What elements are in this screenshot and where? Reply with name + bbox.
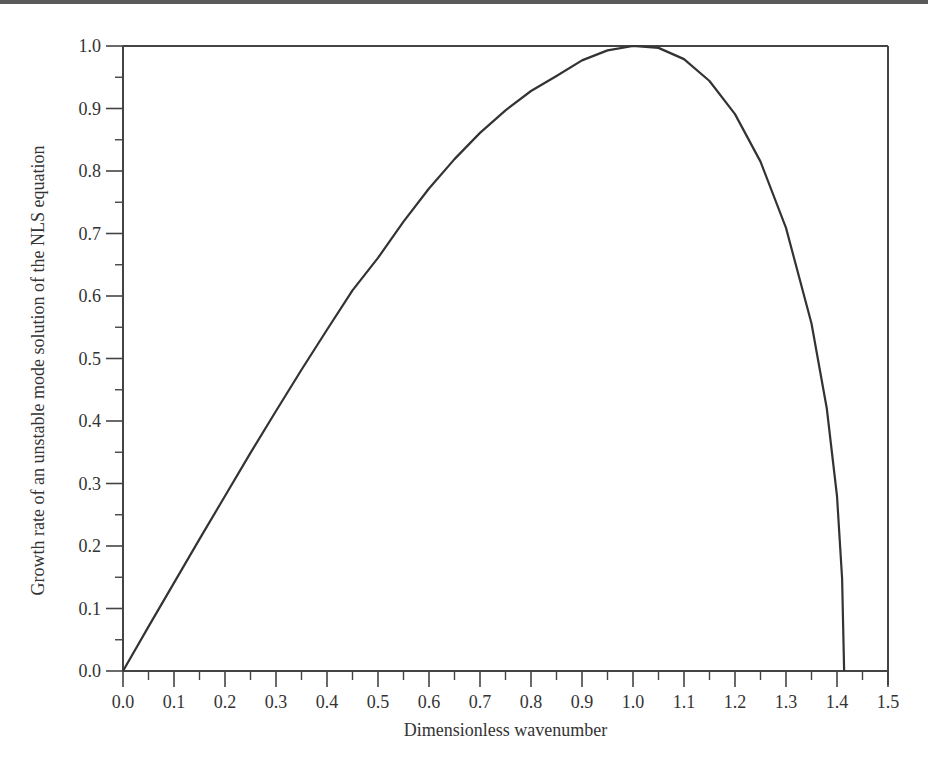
y-tick-label: 0.3 — [79, 474, 102, 494]
x-axis-title: Dimensionless wavenumber — [404, 720, 607, 740]
x-tick-label: 0.0 — [112, 692, 135, 712]
x-tick-label: 0.5 — [367, 692, 390, 712]
x-tick-label: 0.4 — [316, 692, 339, 712]
x-tick-label: 0.8 — [520, 692, 543, 712]
x-tick-label: 1.1 — [673, 692, 696, 712]
x-axis-ticks: 0.00.10.20.30.40.50.60.70.80.91.01.11.21… — [112, 671, 900, 712]
y-axis-title: Growth rate of an unstable mode solution… — [28, 146, 48, 596]
y-tick-label: 1.0 — [79, 36, 102, 56]
y-tick-label: 0.8 — [79, 161, 102, 181]
series-group — [123, 46, 844, 671]
y-tick-label: 0.9 — [79, 99, 102, 119]
x-tick-label: 0.6 — [418, 692, 441, 712]
x-tick-label: 0.9 — [571, 692, 594, 712]
x-tick-label: 1.3 — [775, 692, 798, 712]
x-tick-label: 1.5 — [877, 692, 900, 712]
y-tick-label: 0.7 — [79, 224, 102, 244]
x-tick-label: 1.2 — [724, 692, 747, 712]
x-tick-label: 0.2 — [214, 692, 237, 712]
series-line-growth-rate — [123, 46, 844, 671]
chart: 0.00.10.20.30.40.50.60.70.80.91.01.11.21… — [0, 0, 928, 777]
plot-frame — [123, 46, 888, 685]
x-tick-label: 0.7 — [469, 692, 492, 712]
y-tick-label: 0.5 — [79, 349, 102, 369]
y-tick-label: 0.1 — [79, 599, 102, 619]
x-tick-label: 0.3 — [265, 692, 288, 712]
y-tick-label: 0.0 — [79, 661, 102, 681]
y-tick-label: 0.4 — [79, 411, 102, 431]
x-tick-label: 1.4 — [826, 692, 849, 712]
y-tick-label: 0.2 — [79, 536, 102, 556]
y-tick-label: 0.6 — [79, 286, 102, 306]
x-tick-label: 1.0 — [622, 692, 645, 712]
x-tick-label: 0.1 — [163, 692, 186, 712]
y-axis-ticks: 0.00.10.20.30.40.50.60.70.80.91.0 — [79, 36, 124, 681]
